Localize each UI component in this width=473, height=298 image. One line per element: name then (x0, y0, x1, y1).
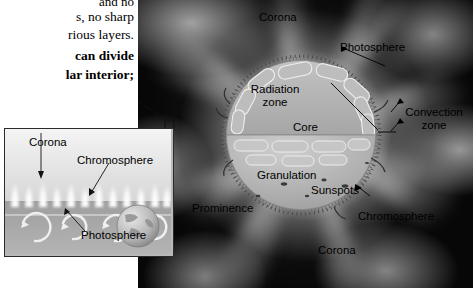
text-line-4: lar interior; (66, 67, 134, 83)
label-convection-zone: Convectionzone (396, 106, 472, 131)
label-sunspots: Sunspots (311, 184, 359, 197)
label-radiation-zone-line2: zone (263, 96, 288, 108)
label-inset-corona: Corona (29, 136, 67, 149)
label-inset-chromosphere: Chromosphere (77, 154, 153, 167)
label-inset-photosphere: Photosphere (81, 229, 146, 242)
zoom-leader-top (138, 4, 165, 120)
sun-structure-diagram: Corona Photosphere Radiationzone Convect… (138, 0, 473, 288)
solar-atmosphere-inset: Corona Chromosphere Photosphere (4, 128, 174, 257)
text-line-3: can divide (75, 48, 134, 64)
label-convection-zone-line2: zone (422, 119, 447, 131)
label-chromosphere: Chromosphere (358, 210, 434, 223)
sun-body (138, 0, 473, 288)
label-radiation-zone-line1: Radiation (251, 83, 300, 95)
label-corona-bottom: Corona (318, 244, 356, 257)
text-line-2: rious layers. (68, 27, 134, 43)
label-core: Core (293, 121, 318, 134)
label-radiation-zone: Radiationzone (240, 83, 310, 108)
text-line-1: s, no sharp (76, 9, 134, 25)
label-prominence: Prominence (192, 202, 253, 215)
label-photosphere: Photosphere (340, 41, 405, 54)
label-convection-zone-line1: Convection (405, 106, 463, 118)
book-body-text: and no s, no sharp rious layers. can div… (0, 0, 138, 130)
label-corona-top: Corona (259, 11, 297, 24)
label-granulation: Granulation (257, 169, 316, 182)
